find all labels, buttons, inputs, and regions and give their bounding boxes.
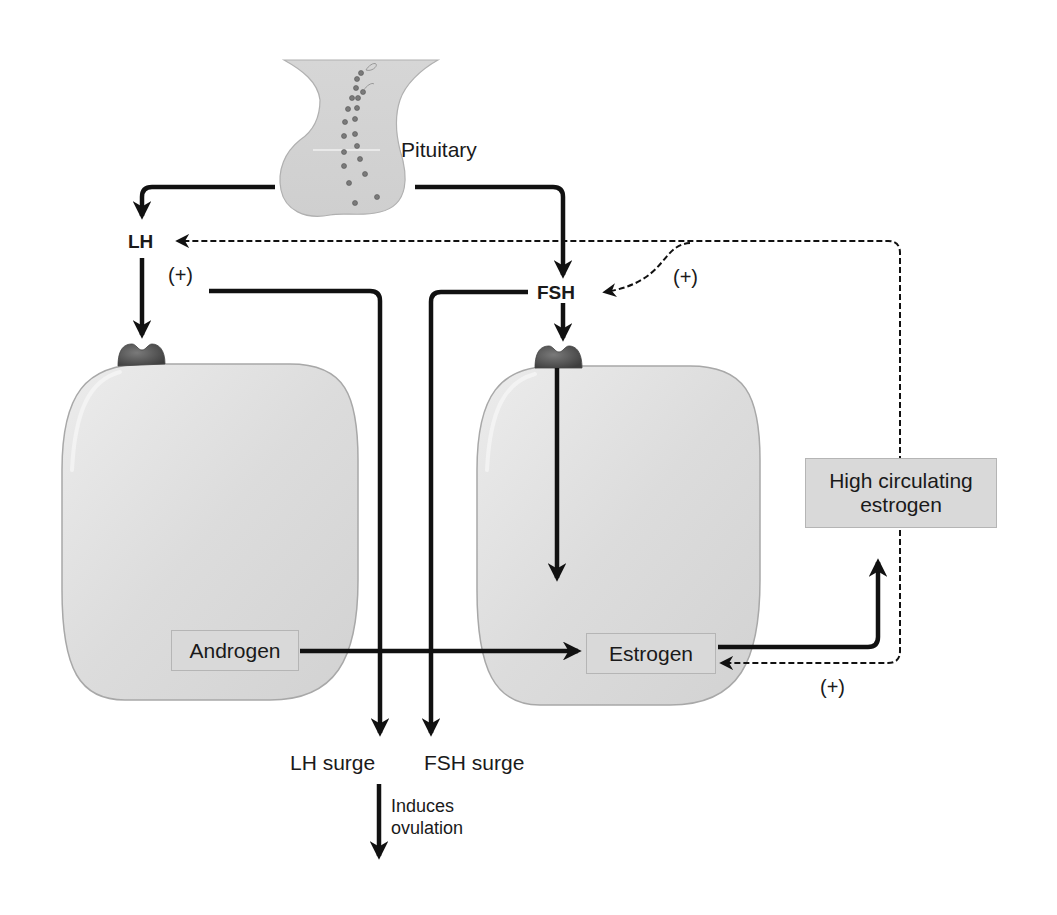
lh-surge-label: LH surge: [290, 751, 375, 775]
high-estrogen-box: High circulating estrogen: [805, 458, 997, 528]
plus-fsh-label: (+): [673, 266, 698, 289]
plus-estrogen-label: (+): [820, 676, 845, 699]
high-estrogen-label: High circulating estrogen: [814, 469, 988, 517]
lh-receptor: [118, 344, 165, 366]
androgen-label: Androgen: [189, 639, 280, 663]
estrogen-label: Estrogen: [609, 642, 693, 666]
estrogen-box: Estrogen: [586, 633, 716, 674]
plus-lh-label: (+): [168, 264, 193, 287]
pituitary-label: Pituitary: [401, 138, 477, 162]
lh-label: LH: [128, 231, 153, 253]
arrow-pituitary-to-fsh: [415, 187, 563, 275]
hormone-feedback-diagram: Pituitary LH FSH (+) (+) (+) Androgen Es…: [0, 0, 1057, 915]
induces-label: Induces: [391, 795, 454, 817]
androgen-box: Androgen: [171, 630, 299, 671]
arrow-pituitary-to-lh: [142, 187, 275, 216]
ovulation-label: ovulation: [391, 817, 463, 839]
fsh-receptor: [535, 346, 582, 368]
fsh-surge-label: FSH surge: [424, 751, 524, 775]
fsh-label: FSH: [537, 282, 575, 304]
